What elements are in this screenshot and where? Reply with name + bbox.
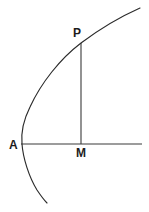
point-label-a: A <box>9 139 18 151</box>
geometry-figure: A P M <box>0 0 149 212</box>
point-label-m: M <box>76 147 86 159</box>
point-label-p: P <box>73 27 81 39</box>
